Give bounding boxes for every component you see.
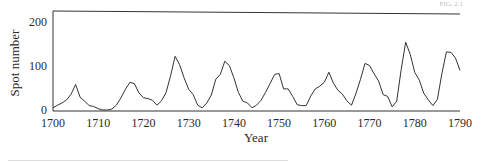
x-tick-label: 1700 [41,116,65,130]
x-tick-label: 1790 [448,116,472,130]
y-tick-labels: 0100200 [29,15,47,117]
top-frame-line [53,11,460,14]
x-tick-label: 1780 [403,116,427,130]
y-tick-label: 200 [29,15,47,29]
x-tick-label: 1720 [131,116,155,130]
y-tick-label: 0 [41,103,47,117]
x-tick-label: 1710 [86,116,110,130]
sunspot-chart: 0100200 17001710172017301740175017601770… [0,0,483,163]
y-tick-label: 100 [29,59,47,73]
y-axis-title: Spot number [7,29,22,96]
x-tick-label: 1730 [177,116,201,130]
x-tick-label: 1760 [312,116,336,130]
spot-number-series-line [53,42,460,110]
x-tick-labels: 1700171017201730174017501760177017801790 [41,116,472,130]
x-axis-title: Year [244,130,269,145]
x-tick-label: 1770 [358,116,382,130]
x-tick-label: 1740 [222,116,246,130]
footer-rule [8,160,288,161]
faint-header-text: FIG. 2.1 [439,0,463,8]
x-tick-label: 1750 [267,116,291,130]
